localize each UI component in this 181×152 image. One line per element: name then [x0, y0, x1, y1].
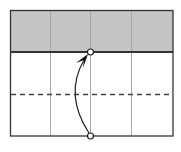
origami-diagram — [0, 0, 181, 152]
source-point-marker — [88, 133, 94, 139]
fold-arrow — [75, 60, 89, 133]
target-point-marker — [88, 49, 94, 55]
arrow-head-icon — [76, 54, 88, 68]
folded-flap — [11, 11, 174, 53]
